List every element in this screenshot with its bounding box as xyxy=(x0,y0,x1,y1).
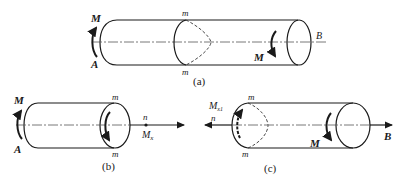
caption-c: (c) xyxy=(264,162,277,175)
caption-a: (a) xyxy=(193,75,206,88)
shaft-b xyxy=(24,103,130,148)
caption-b: (b) xyxy=(102,160,115,173)
label-A-b: A xyxy=(13,143,21,155)
torque-arrow-section-c xyxy=(237,110,242,138)
vector-dot-b xyxy=(144,123,147,126)
label-M-right-a: M xyxy=(253,51,265,63)
torque-arrow-right-a xyxy=(271,31,276,56)
shaft-c xyxy=(232,103,370,148)
section-mm-a xyxy=(174,20,211,65)
label-m-top-a: m xyxy=(182,8,189,18)
label-A-a: A xyxy=(90,58,98,70)
figure-a: M A m m M B (a) xyxy=(90,8,326,88)
label-m-top-b: m xyxy=(112,92,119,102)
label-m-bottom-a: m xyxy=(182,67,189,77)
label-Mx1-c: Mx1 xyxy=(208,100,223,112)
label-m-top-c: m xyxy=(248,92,255,102)
label-B-a: B xyxy=(316,30,322,41)
torque-arrow-section-b xyxy=(105,112,110,140)
label-M-left-a: M xyxy=(90,12,102,24)
torque-arrow-left-a xyxy=(92,28,97,57)
label-n-c: n xyxy=(211,113,216,123)
label-Mx-b: Mx xyxy=(141,129,154,142)
figure-c: Mx1 n m m M B (c) xyxy=(205,92,392,175)
label-n-b: n xyxy=(143,112,148,122)
label-M-b: M xyxy=(13,94,25,106)
figure-b: M A m m n Mx (b) xyxy=(13,92,184,173)
label-M-c: M xyxy=(309,137,321,149)
torque-arrow-right-c xyxy=(327,113,332,140)
label-B-c: B xyxy=(383,130,391,142)
label-m-bottom-c: m xyxy=(242,149,249,159)
shaft-a xyxy=(100,20,311,65)
label-m-bottom-b: m xyxy=(112,149,119,159)
torsion-diagram: M A m m M B (a) M A m m n Mx (b) xyxy=(0,0,406,184)
